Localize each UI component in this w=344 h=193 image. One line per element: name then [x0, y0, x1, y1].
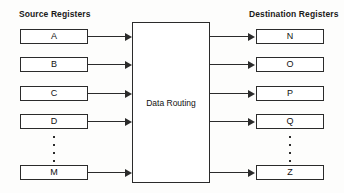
- arrow-shaft: [88, 172, 126, 173]
- destination-register-box: Q: [256, 114, 324, 129]
- ellipsis-dot: [53, 136, 55, 138]
- destination-register-box: Z: [256, 165, 324, 180]
- source-vertical-ellipsis: [49, 136, 59, 162]
- arrow-head-icon: [125, 169, 132, 177]
- source-register-box: B: [20, 57, 88, 72]
- arrow-shaft: [88, 64, 126, 65]
- source-register-box: D: [20, 114, 88, 129]
- data-routing-diagram: Source Registers Destination Registers A…: [0, 0, 344, 193]
- ellipsis-dot: [289, 152, 291, 154]
- source-register-box: A: [20, 29, 88, 44]
- source-register-box: M: [20, 165, 88, 180]
- arrow-router-to-destination: [210, 89, 256, 98]
- arrow-source-to-router: [88, 32, 132, 41]
- ellipsis-dot: [53, 144, 55, 146]
- arrow-shaft: [210, 36, 249, 37]
- arrow-head-icon: [125, 118, 132, 126]
- arrow-head-icon: [248, 61, 255, 69]
- arrow-head-icon: [248, 33, 255, 41]
- ellipsis-dot: [289, 160, 291, 162]
- arrow-router-to-destination: [210, 32, 256, 41]
- arrow-head-icon: [125, 90, 132, 98]
- arrow-head-icon: [248, 169, 255, 177]
- ellipsis-dot: [289, 136, 291, 138]
- arrow-source-to-router: [88, 117, 132, 126]
- data-routing-label: Data Routing: [146, 98, 196, 108]
- arrow-head-icon: [248, 90, 255, 98]
- arrow-head-icon: [248, 118, 255, 126]
- arrow-head-icon: [125, 61, 132, 69]
- arrow-source-to-router: [88, 168, 132, 177]
- arrow-shaft: [210, 172, 249, 173]
- source-registers-heading: Source Registers: [19, 9, 91, 19]
- destination-register-box: N: [256, 29, 324, 44]
- arrow-shaft: [210, 93, 249, 94]
- arrow-source-to-router: [88, 60, 132, 69]
- destination-vertical-ellipsis: [285, 136, 295, 162]
- arrow-router-to-destination: [210, 168, 256, 177]
- arrow-source-to-router: [88, 89, 132, 98]
- arrow-shaft: [210, 64, 249, 65]
- arrow-shaft: [88, 121, 126, 122]
- destination-registers-heading: Destination Registers: [249, 9, 338, 19]
- source-register-box: C: [20, 86, 88, 101]
- arrow-shaft: [210, 121, 249, 122]
- data-routing-box: Data Routing: [132, 22, 210, 183]
- destination-register-box: O: [256, 57, 324, 72]
- arrow-router-to-destination: [210, 60, 256, 69]
- arrow-router-to-destination: [210, 117, 256, 126]
- arrow-shaft: [88, 93, 126, 94]
- ellipsis-dot: [289, 144, 291, 146]
- ellipsis-dot: [53, 152, 55, 154]
- destination-register-box: P: [256, 86, 324, 101]
- ellipsis-dot: [53, 160, 55, 162]
- arrow-shaft: [88, 36, 126, 37]
- arrow-head-icon: [125, 33, 132, 41]
